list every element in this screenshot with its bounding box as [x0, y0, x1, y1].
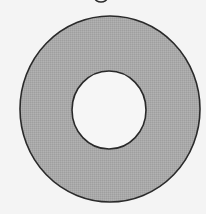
annulus-diagram	[0, 0, 206, 214]
inner-circle	[72, 71, 146, 149]
cropped-glyph-fragment	[95, 0, 107, 2]
annulus-figure: Shaded ring between two concentric circl…	[0, 0, 206, 214]
